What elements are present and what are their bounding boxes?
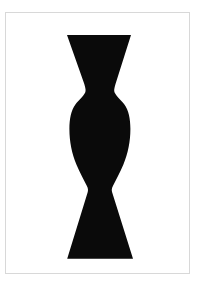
vase-silhouette-path [67,35,133,259]
image-canvas: Vase Silhouette [0,0,197,286]
vase-silhouette-figure [0,0,197,286]
